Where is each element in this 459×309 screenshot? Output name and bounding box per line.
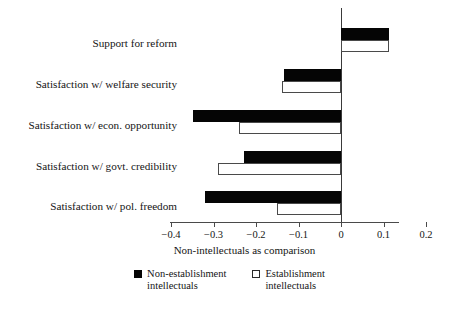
bar-3-1 xyxy=(218,163,341,175)
x-tick-label-2: −0.2 xyxy=(246,229,265,241)
white-square-icon xyxy=(252,270,260,278)
bar-3-0 xyxy=(244,151,341,163)
x-axis-line xyxy=(170,222,399,223)
bar-0-1 xyxy=(341,40,389,52)
bar-4-1 xyxy=(277,203,341,215)
bar-4-0 xyxy=(205,191,341,203)
legend-label-non-establishment: Non-establishment intellectuals xyxy=(147,268,226,292)
black-square-icon xyxy=(134,270,142,278)
bar-0-0 xyxy=(341,28,389,40)
x-tick-0 xyxy=(171,222,172,227)
x-axis-title-text: Non-intellectuals as comparison xyxy=(174,244,316,257)
x-tick-label-1: −0.3 xyxy=(204,229,223,241)
x-tick-1 xyxy=(214,222,215,227)
x-tick-2 xyxy=(256,222,257,227)
legend-item-establishment: Establishment intellectuals xyxy=(252,268,325,292)
x-tick-4 xyxy=(341,222,342,227)
bar-2-1 xyxy=(239,122,341,134)
x-tick-5 xyxy=(384,222,385,227)
x-tick-6 xyxy=(426,222,427,227)
chart-figure: Support for reform Satisfaction w/ welfa… xyxy=(0,0,459,309)
x-tick-label-3: −0.1 xyxy=(289,229,308,241)
x-tick-label-4: 0 xyxy=(338,229,343,241)
chart-legend: Non-establishment intellectuals Establis… xyxy=(0,268,459,292)
x-tick-label-5: 0.1 xyxy=(377,229,390,241)
bar-2-0 xyxy=(193,110,341,122)
legend-item-non-establishment: Non-establishment intellectuals xyxy=(134,268,226,292)
bar-1-0 xyxy=(284,69,341,81)
legend-label-establishment: Establishment intellectuals xyxy=(265,268,325,292)
plot-area xyxy=(0,0,459,225)
bar-1-1 xyxy=(282,81,341,93)
x-tick-label-6: 0.2 xyxy=(419,229,432,241)
x-axis-title: Non-intellectuals as comparison xyxy=(0,244,459,257)
x-tick-3 xyxy=(299,222,300,227)
x-tick-label-0: −0.4 xyxy=(161,229,180,241)
